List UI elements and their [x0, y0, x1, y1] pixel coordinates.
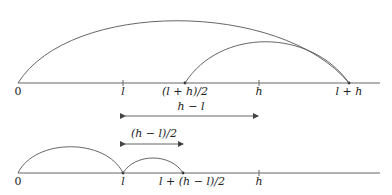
- bottom-number-line: 0 l l + (h − l)/2 h: [15, 147, 381, 188]
- top-label-zero: 0: [15, 85, 22, 98]
- arc-zero-to-lph: [18, 21, 349, 83]
- top-label-lph: l + h: [336, 85, 363, 98]
- bottom-label-zero: 0: [15, 175, 22, 188]
- bottom-label-l: l: [121, 175, 125, 188]
- arc-mid-to-lph: [185, 42, 349, 83]
- arrow-label-h-minus-l: h − l: [178, 100, 205, 113]
- top-number-line: 0 l (l + h)/2 h l + h: [15, 21, 381, 98]
- arrow-label-half-h-minus-l: (h − l)/2: [131, 127, 177, 140]
- diagram-canvas: 0 l (l + h)/2 h l + h h − l (h − l)/2 0 …: [0, 0, 392, 195]
- arc-l-to-mid: [123, 158, 183, 173]
- top-label-l: l: [121, 85, 125, 98]
- diagram-svg: 0 l (l + h)/2 h l + h h − l (h − l)/2 0 …: [0, 0, 392, 195]
- measure-arrows: h − l (h − l)/2: [125, 100, 258, 144]
- top-label-h: h: [255, 85, 262, 98]
- bottom-label-h: h: [255, 175, 262, 188]
- arc-zero-to-l: [18, 147, 123, 173]
- bottom-label-mid: l + (h − l)/2: [159, 175, 225, 188]
- top-label-mid: (l + h)/2: [162, 85, 208, 98]
